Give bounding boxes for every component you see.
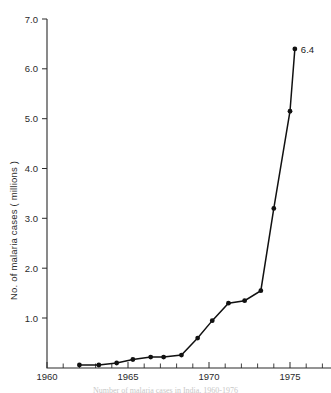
data-point	[210, 318, 215, 323]
y-tick-label-1: 1.0	[25, 313, 38, 324]
y-axis-ticks	[42, 19, 47, 318]
y-tick-label-6: 6.0	[25, 63, 38, 74]
x-tick-label-1960: 1960	[36, 371, 57, 382]
x-tick-label-1965: 1965	[117, 371, 138, 382]
data-point	[130, 357, 135, 362]
y-tick-label-2: 2.0	[25, 263, 38, 274]
data-point	[96, 363, 101, 368]
x-axis-tick-labels: 1960 1965 1970 1975	[36, 371, 300, 382]
y-axis-tick-labels: 7.0 6.0 5.0 4.0 3.0 2.0 1.0	[25, 14, 38, 324]
y-tick-label-3: 3.0	[25, 213, 38, 224]
peak-value-label: 6.4	[301, 44, 314, 55]
data-point	[288, 109, 293, 114]
y-tick-label-7: 7.0	[25, 14, 38, 25]
data-point	[148, 355, 153, 360]
y-axis-title: No. of malaria cases ( millions )	[8, 161, 19, 300]
data-point	[226, 301, 231, 306]
data-point	[271, 206, 276, 211]
chart-plot-area: 7.0 6.0 5.0 4.0 3.0 2.0 1.0 No. of malar…	[0, 0, 331, 393]
y-tick-label-5: 5.0	[25, 113, 38, 124]
data-point	[77, 363, 82, 368]
y-tick-label-4: 4.0	[25, 163, 38, 174]
chart-axes	[47, 19, 331, 368]
malaria-cases-chart-figure: 7.0 6.0 5.0 4.0 3.0 2.0 1.0 No. of malar…	[0, 0, 331, 393]
series-markers	[77, 47, 297, 368]
x-tick-label-1970: 1970	[198, 371, 219, 382]
page-caption-sliver: Number of malaria cases in India, 1960-1…	[0, 386, 331, 393]
x-tick-label-1975: 1975	[279, 371, 300, 382]
series-line-malaria-cases	[79, 49, 294, 365]
data-point	[179, 353, 184, 358]
data-point	[242, 298, 247, 303]
data-point	[114, 361, 119, 366]
data-point	[258, 288, 263, 293]
data-point	[161, 355, 166, 360]
data-point	[195, 336, 200, 341]
data-point	[292, 47, 297, 52]
